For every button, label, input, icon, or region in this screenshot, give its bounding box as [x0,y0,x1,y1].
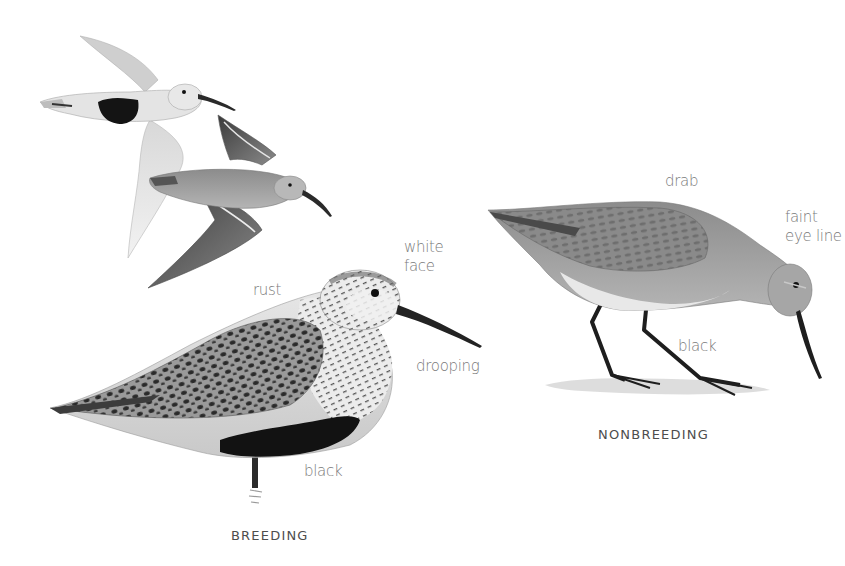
label-drooping: drooping [416,357,480,376]
label-drab: drab [665,172,698,191]
label-black-nonbreeding: black [678,337,716,356]
foraging-bird-nonbreeding [488,202,822,395]
label-faint-eye-line: faint eye line [785,208,842,246]
field-guide-plate: rust white face drooping black drab fain… [0,0,845,566]
standing-bird-breeding [50,270,482,503]
illustration-canvas [0,0,845,566]
caption-nonbreeding: NONBREEDING [598,427,709,442]
caption-breeding: BREEDING [231,528,309,543]
label-white-face: white face [404,238,444,276]
label-black-breeding: black [304,462,342,481]
flying-bird-breeding [40,36,236,258]
label-rust: rust [253,281,281,300]
